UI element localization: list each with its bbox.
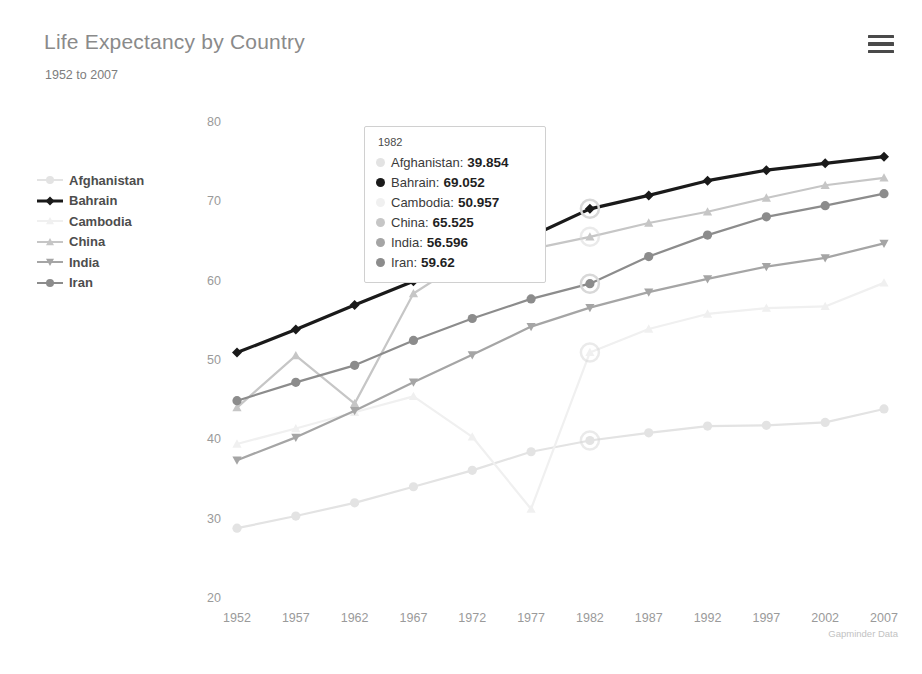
data-point xyxy=(468,351,477,359)
data-point xyxy=(879,278,888,286)
series-line-bahrain xyxy=(237,157,884,353)
highlight-ring xyxy=(581,343,599,361)
y-axis-tick: 40 xyxy=(207,432,221,446)
data-point xyxy=(291,351,300,359)
data-point xyxy=(350,361,359,370)
data-point xyxy=(291,511,300,520)
hamburger-menu-icon[interactable] xyxy=(868,33,894,55)
circle-icon xyxy=(36,275,64,291)
data-source-credit: Gapminder Data xyxy=(828,628,898,639)
tooltip-series-name: Bahrain: xyxy=(391,175,439,190)
data-point xyxy=(585,232,594,240)
data-point xyxy=(703,421,712,430)
plot-area: 2030405060708019521957196219671972197719… xyxy=(0,0,922,674)
legend-item-china[interactable]: China xyxy=(36,232,201,253)
legend-item-afghanistan[interactable]: Afghanistan xyxy=(36,170,201,191)
series-color-dot xyxy=(376,238,385,247)
highlight-ring xyxy=(581,200,599,218)
highlight-ring xyxy=(581,275,599,293)
y-axis-tick: 50 xyxy=(207,353,221,367)
legend-item-label: Cambodia xyxy=(69,214,132,229)
data-point xyxy=(762,263,771,271)
data-point xyxy=(879,173,888,181)
series-line-cambodia xyxy=(237,283,884,509)
x-axis-tick: 2007 xyxy=(870,611,898,625)
series-color-dot xyxy=(376,258,385,267)
tooltip-series-value: 50.957 xyxy=(458,195,499,210)
data-point xyxy=(585,204,595,214)
x-axis-tick: 1992 xyxy=(694,611,722,625)
series-line-china xyxy=(237,178,884,408)
data-point xyxy=(526,447,535,456)
data-point xyxy=(703,231,712,240)
x-axis-tick: 1967 xyxy=(400,611,428,625)
legend-item-india[interactable]: India xyxy=(36,252,201,273)
series-line-afghanistan xyxy=(237,409,884,528)
data-point xyxy=(762,304,771,312)
data-point xyxy=(409,379,418,387)
series-line-iran xyxy=(237,194,884,401)
data-point xyxy=(291,424,300,432)
data-point xyxy=(585,436,594,445)
data-point xyxy=(644,324,653,332)
data-point xyxy=(291,434,300,442)
page-title: Life Expectancy by Country xyxy=(44,30,305,54)
y-axis-tick: 80 xyxy=(207,115,221,129)
x-axis-tick: 1952 xyxy=(223,611,251,625)
data-point xyxy=(232,348,242,358)
chart-tooltip: 1982 Afghanistan:39.854Bahrain:69.052Cam… xyxy=(364,126,546,283)
x-axis-tick: 1977 xyxy=(517,611,545,625)
x-axis-tick: 1962 xyxy=(341,611,369,625)
series-color-dot xyxy=(376,218,385,227)
triangle-down-icon xyxy=(36,254,64,270)
data-point xyxy=(409,482,418,491)
data-point xyxy=(820,158,830,168)
tooltip-row: India:56.596 xyxy=(376,232,533,252)
tooltip-series-value: 56.596 xyxy=(427,235,468,250)
legend-item-label: China xyxy=(69,234,105,249)
data-point xyxy=(703,176,713,186)
legend-item-label: Iran xyxy=(69,275,93,290)
data-point xyxy=(409,392,418,400)
data-point xyxy=(232,403,241,411)
data-point xyxy=(468,432,477,440)
data-point xyxy=(350,399,359,407)
data-point xyxy=(762,193,771,201)
data-point xyxy=(644,218,653,226)
x-axis-tick: 1972 xyxy=(458,611,486,625)
data-point xyxy=(232,396,241,405)
tooltip-series-value: 69.052 xyxy=(443,175,484,190)
legend-item-bahrain[interactable]: Bahrain xyxy=(36,191,201,212)
data-point xyxy=(644,288,653,296)
legend-item-cambodia[interactable]: Cambodia xyxy=(36,211,201,232)
chart-legend: Afghanistan Bahrain Cambodia China India… xyxy=(36,170,201,293)
data-point xyxy=(644,190,654,200)
data-point xyxy=(350,407,359,415)
tooltip-series-name: India: xyxy=(391,235,423,250)
data-point xyxy=(585,348,594,356)
data-point xyxy=(291,325,301,335)
page-subtitle: 1952 to 2007 xyxy=(45,68,118,82)
legend-item-iran[interactable]: Iran xyxy=(36,273,201,294)
series-color-dot xyxy=(376,158,385,167)
highlight-ring xyxy=(581,228,599,246)
legend-item-label: Afghanistan xyxy=(69,173,144,188)
menu-bar-1 xyxy=(868,35,894,38)
y-axis-tick: 20 xyxy=(207,591,221,605)
data-point xyxy=(879,240,888,248)
x-axis-tick: 1957 xyxy=(282,611,310,625)
tooltip-row: Cambodia:50.957 xyxy=(376,192,533,212)
data-point xyxy=(350,498,359,507)
series-color-dot xyxy=(376,178,385,187)
tooltip-year: 1982 xyxy=(376,136,533,148)
tooltip-row: Afghanistan:39.854 xyxy=(376,152,533,172)
data-point xyxy=(879,152,889,162)
y-axis-tick: 30 xyxy=(207,512,221,526)
y-axis-tick: 70 xyxy=(207,194,221,208)
data-point xyxy=(350,408,359,416)
data-point xyxy=(232,524,241,533)
data-point xyxy=(762,421,771,430)
data-point xyxy=(879,404,888,413)
tooltip-row: Bahrain:69.052 xyxy=(376,172,533,192)
tooltip-series-name: China: xyxy=(391,215,429,230)
